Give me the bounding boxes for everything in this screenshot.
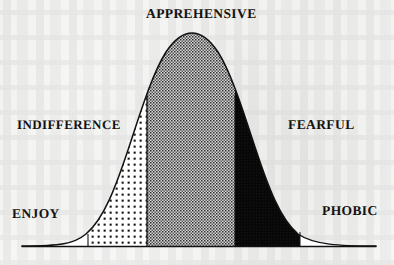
region-fill-fearful [235,20,300,250]
label-enjoy: ENJOY [12,206,60,222]
label-indifference: INDIFFERENCE [17,117,121,133]
label-fearful: FEARFUL [288,117,355,133]
region-fill-indifference [88,20,147,250]
label-apprehensive: APPREHENSIVE [146,6,257,22]
region-fill-apprehensive [147,20,235,250]
label-phobic: PHOBIC [322,203,378,219]
figure-canvas: APPREHENSIVE INDIFFERENCE FEARFUL ENJOY … [0,0,394,265]
